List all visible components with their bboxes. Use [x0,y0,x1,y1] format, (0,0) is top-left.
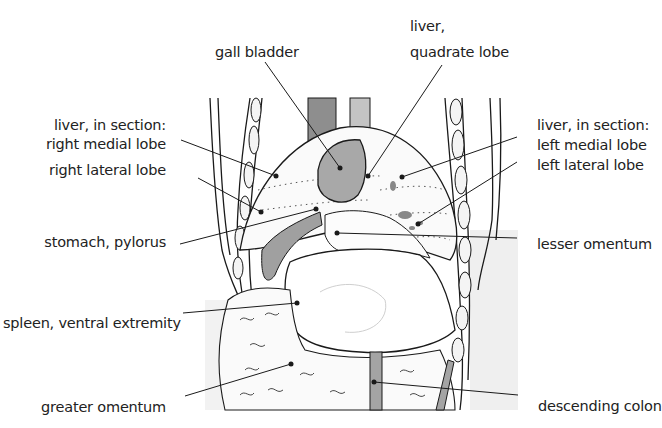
label-liver-section-right: liver, in section: [54,117,166,134]
label-liver-quadrate-line1: liver, [410,18,445,35]
label-liver-section-left: liver, in section: [537,117,649,134]
label-spleen-ventral-extremity: spleen, ventral extremity [3,315,181,332]
label-lesser-omentum: lesser omentum [537,236,652,253]
label-gall-bladder: gall bladder [215,44,299,61]
label-right-lateral-lobe: right lateral lobe [49,162,166,179]
shade-band-right [470,230,518,410]
label-right-medial-lobe: right medial lobe [46,136,166,153]
label-liver-quadrate-line2: quadrate lobe [410,44,509,61]
label-greater-omentum: greater omentum [41,399,166,416]
label-left-medial-lobe: left medial lobe [537,137,647,154]
label-stomach-pylorus: stomach, pylorus [44,234,166,251]
spleen-shape [285,249,455,352]
label-descending-colon: descending colon [538,398,662,415]
label-left-lateral-lobe: left lateral lobe [537,157,644,174]
